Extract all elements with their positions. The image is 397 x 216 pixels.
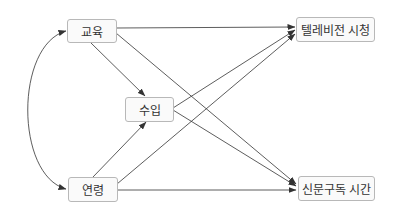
node-education[interactable]: 교육: [67, 19, 117, 43]
node-income[interactable]: 수입: [125, 97, 174, 122]
edge-income-tv: [173, 30, 295, 108]
node-tv[interactable]: 텔레비전 시청: [296, 17, 375, 42]
node-newspaper[interactable]: 신문구독 시간: [298, 176, 375, 201]
edge-age-income: [93, 122, 146, 177]
edge-education-age-covariance: [28, 31, 66, 189]
node-tv-label: 텔레비전 시청: [301, 21, 371, 38]
node-age[interactable]: 연령: [68, 177, 118, 202]
node-newspaper-label: 신문구독 시간: [302, 180, 372, 197]
node-age-label: 연령: [82, 181, 104, 198]
edge-education-tv: [116, 27, 295, 28]
node-income-label: 수입: [139, 101, 161, 118]
node-education-label: 교육: [81, 23, 103, 40]
